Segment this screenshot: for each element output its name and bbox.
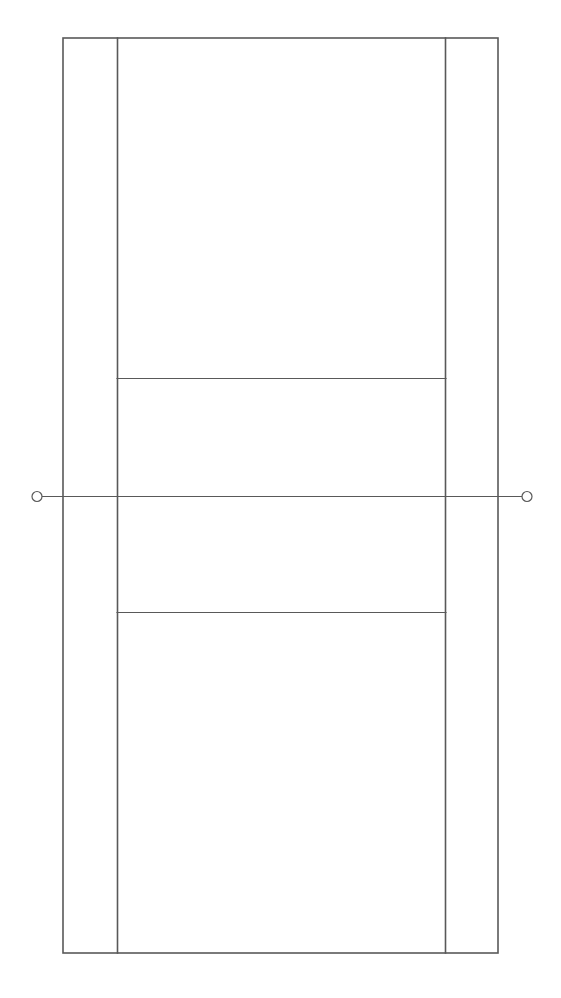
net-post-left-icon: [32, 492, 42, 502]
net-post-right-icon: [522, 492, 532, 502]
tennis-court-diagram: [0, 0, 561, 998]
diagram-background: [0, 0, 561, 998]
court-svg-canvas: [0, 0, 561, 998]
